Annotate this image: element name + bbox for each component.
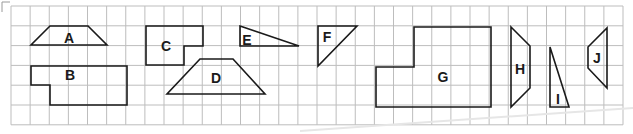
shape-label-g: G xyxy=(438,69,449,85)
shape-label-d: D xyxy=(211,70,221,86)
shape-label-h: H xyxy=(515,61,525,77)
shape-label-c: C xyxy=(161,38,171,54)
scan-artifact xyxy=(300,108,633,131)
shape-label-i: I xyxy=(556,91,560,107)
shape-label-e: E xyxy=(242,32,251,48)
shape-e: E xyxy=(240,26,299,48)
shape-label-a: A xyxy=(64,30,74,46)
shape-label-b: B xyxy=(65,67,75,83)
shape-a: A xyxy=(31,26,107,46)
shape-label-f: F xyxy=(323,29,332,45)
shape-label-j: J xyxy=(593,50,601,66)
shapes-layer: ABCDEFGHIJ xyxy=(31,26,607,107)
corner-mark xyxy=(2,2,10,12)
shape-grid-figure: ABCDEFGHIJ xyxy=(0,0,633,134)
shape-i: I xyxy=(550,47,569,107)
